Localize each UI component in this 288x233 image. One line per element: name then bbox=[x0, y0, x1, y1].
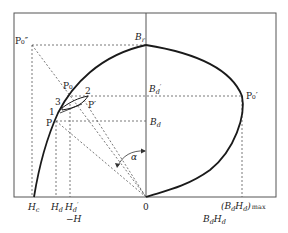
label-hc: Hc bbox=[27, 202, 40, 214]
label-p-prime: P′ bbox=[88, 100, 96, 110]
label-br: Br bbox=[134, 32, 146, 44]
label-point-3: 3 bbox=[55, 97, 61, 107]
label-bd-prime: Bd′ bbox=[148, 83, 162, 96]
label-bdhd-axis: BdHd bbox=[202, 214, 226, 226]
label-origin: 0 bbox=[143, 202, 149, 212]
label-alpha: α bbox=[131, 152, 137, 162]
construction-lines bbox=[32, 45, 242, 197]
label-point-2: 2 bbox=[85, 86, 91, 96]
label-p: P bbox=[46, 118, 52, 128]
plot-frame bbox=[14, 13, 276, 197]
label-hd: Hd bbox=[50, 202, 63, 214]
label-p0-double-prime: P₀″ bbox=[15, 36, 29, 46]
label-p0-prime: P₀′ bbox=[246, 91, 258, 101]
label-point-1: 1 bbox=[49, 107, 55, 117]
label-hd-prime: Hd′ bbox=[64, 201, 79, 214]
recoil-line bbox=[60, 104, 82, 113]
label-bd: Bd bbox=[149, 117, 161, 129]
label-bdhd-max: (BdHd)max bbox=[221, 201, 266, 213]
bh-diagram: P₀″ Br P₀ 2 3 P′ 1 P Bd′ Bd P₀′ α Hc Hd … bbox=[0, 0, 288, 233]
label-p0: P₀ bbox=[63, 81, 73, 91]
alpha-arrow-icon bbox=[141, 149, 146, 154]
label-neg-h: −H bbox=[66, 214, 82, 224]
